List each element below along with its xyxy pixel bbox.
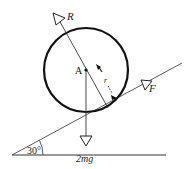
weight-arrow-icon: [80, 136, 92, 146]
weight-label: 2mg: [76, 153, 93, 164]
angle-label: 30°: [27, 145, 41, 156]
reaction-label: R: [66, 10, 74, 22]
incline-line: [12, 63, 182, 155]
reaction-line: [59, 20, 108, 108]
center-dot: [84, 68, 87, 71]
radius-label: r: [104, 76, 108, 85]
reaction-arrow-icon: [53, 13, 65, 25]
free-body-diagram: R A r F 2mg 30°: [0, 0, 195, 169]
radius-dash: [108, 86, 112, 93]
friction-label: F: [148, 82, 156, 94]
center-label: A: [75, 65, 83, 76]
